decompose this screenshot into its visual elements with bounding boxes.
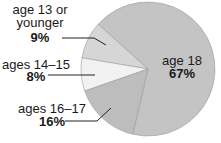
label-age-13-line2: younger	[17, 15, 65, 30]
value-ages-16-17: 16%	[39, 114, 65, 129]
value-age-13: 9%	[31, 30, 50, 45]
value-age-18: 67%	[169, 66, 195, 81]
value-ages-14-15: 8%	[27, 69, 46, 84]
pie-chart: age 13 or younger 9% ages 14–15 8% ages …	[0, 0, 221, 143]
